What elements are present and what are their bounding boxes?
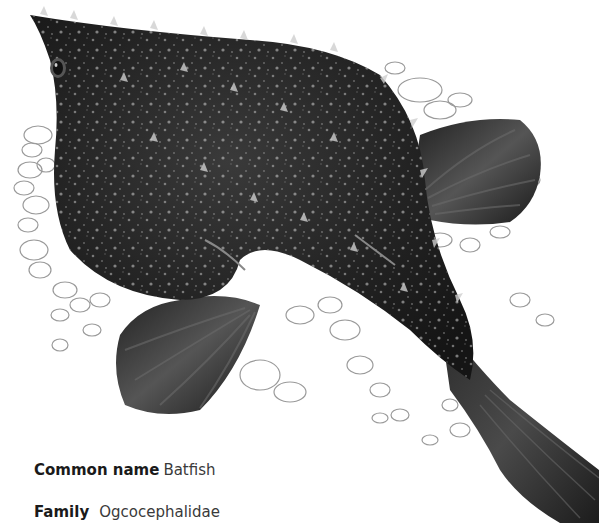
common-name-value: Batfish [163, 461, 215, 479]
family-label: Family [34, 503, 89, 521]
eye-icon [50, 58, 66, 78]
left-fin [116, 296, 260, 414]
family-value: Ogcocephalidae [99, 503, 220, 521]
family-row: FamilyOgcocephalidae [34, 503, 220, 521]
batfish-illustration [0, 0, 599, 523]
common-name-row: Common nameBatfish [34, 461, 216, 479]
common-name-label: Common name [34, 461, 159, 479]
